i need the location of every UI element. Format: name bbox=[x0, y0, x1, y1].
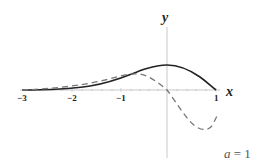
x-axis-label: x bbox=[225, 84, 233, 99]
y-axis-label: y bbox=[160, 10, 169, 25]
parameter-value: = 1 bbox=[231, 146, 251, 161]
x-tick-label: −2 bbox=[67, 93, 77, 103]
solid-curve bbox=[22, 65, 216, 90]
x-tick-label: −1 bbox=[116, 93, 126, 103]
x-tick-label: −3 bbox=[17, 93, 27, 103]
parameter-annotation: a = 1 bbox=[224, 146, 251, 162]
plot-area: −3 −2 −1 1 x y bbox=[0, 0, 268, 165]
x-tick-label: 1 bbox=[214, 93, 219, 103]
